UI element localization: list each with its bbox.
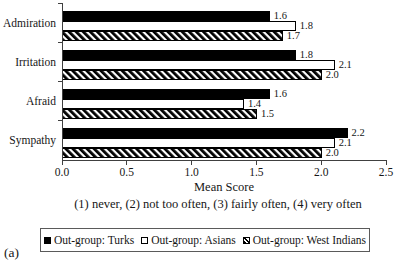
legend-item: Out-group: Turks (44, 234, 134, 246)
category-label: Afraid (26, 95, 56, 107)
legend-label: Out-group: Turks (54, 234, 134, 246)
bar-chart: Admiration1.61.81.7Irritation1.82.12.0Af… (0, 0, 396, 196)
legend-item: Out-group: Asians (141, 234, 236, 246)
bar (63, 90, 270, 99)
bar-value-label: 2.1 (339, 59, 352, 70)
x-tick-label: 2.5 (379, 166, 394, 178)
bar-value-label: 1.6 (274, 10, 287, 21)
bar (63, 129, 348, 138)
scale-caption: (1) never, (2) not too often, (3) fairly… (42, 197, 394, 212)
bar (63, 110, 257, 119)
legend-box: Out-group: TurksOut-group: AsiansOut-gro… (40, 228, 370, 252)
plot-area: Admiration1.61.81.7Irritation1.82.12.0Af… (3, 3, 393, 194)
category-label: Sympathy (9, 134, 56, 147)
legend-marker-icon (243, 237, 250, 244)
bar-value-label: 2.2 (352, 127, 365, 138)
x-axis-title: Mean Score (194, 180, 254, 194)
bar (63, 100, 244, 109)
bar-value-label: 1.8 (300, 49, 313, 60)
legend-label: Out-group: Asians (151, 234, 236, 246)
bar-value-label: 2.1 (339, 137, 352, 148)
panel-label: (a) (4, 245, 19, 261)
bar (63, 139, 335, 148)
x-tick-label: 1.5 (249, 166, 264, 178)
legend-label: Out-group: West Indians (253, 234, 366, 246)
x-tick-label: 0.5 (120, 166, 135, 178)
legend-marker-icon (141, 237, 148, 244)
bar-value-label: 2.0 (326, 69, 339, 80)
bar (63, 60, 335, 69)
bar (63, 70, 322, 79)
bar-value-label: 1.6 (274, 88, 287, 99)
bar (63, 31, 283, 40)
x-tick-label: 2.0 (314, 166, 329, 178)
bar-value-label: 1.5 (261, 108, 274, 119)
legend-item: Out-group: West Indians (243, 234, 366, 246)
bar (63, 50, 296, 59)
bar-value-label: 2.0 (326, 147, 339, 158)
legend-marker-icon (44, 237, 51, 244)
bar (63, 149, 322, 158)
category-label: Irritation (15, 56, 56, 68)
bar-value-label: 1.8 (300, 20, 313, 31)
x-tick-label: 0.0 (55, 166, 70, 178)
bar (63, 21, 296, 30)
figure-panel: Admiration1.61.81.7Irritation1.82.12.0Af… (0, 0, 396, 267)
x-tick-label: 1.0 (184, 166, 199, 178)
bar-value-label: 1.4 (248, 98, 262, 109)
category-label: Admiration (3, 17, 56, 29)
bar (63, 11, 270, 20)
bar-value-label: 1.7 (287, 30, 300, 41)
